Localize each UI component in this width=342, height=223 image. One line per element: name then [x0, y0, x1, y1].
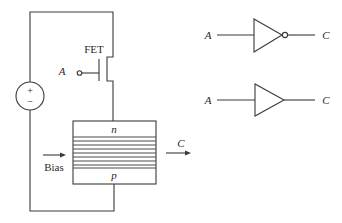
inverter-output-label: C — [322, 29, 330, 41]
source-plus-sign: + — [27, 85, 33, 96]
inverter-input-label: A — [204, 29, 212, 41]
circuit-loop — [30, 12, 114, 211]
inverter-gate-icon — [217, 19, 315, 52]
gate-input-label: A — [58, 65, 66, 77]
buffer-output-label: C — [322, 94, 330, 106]
output-c-label: C — [177, 137, 185, 149]
bias-arrow-icon — [43, 153, 66, 158]
quantum-well-stripes — [73, 137, 156, 168]
buffer-input-label: A — [204, 94, 212, 106]
buffer-gate-icon — [217, 84, 315, 116]
optical-fet-diagram: + − FET A n p Bias C — [0, 0, 342, 223]
source-minus-sign: − — [27, 96, 33, 107]
n-region-label: n — [111, 123, 117, 135]
output-arrow-icon — [166, 151, 191, 156]
fet-transistor-icon — [77, 59, 99, 81]
bias-label: Bias — [44, 161, 64, 173]
p-region-label: p — [110, 169, 117, 181]
fet-label: FET — [84, 43, 104, 55]
